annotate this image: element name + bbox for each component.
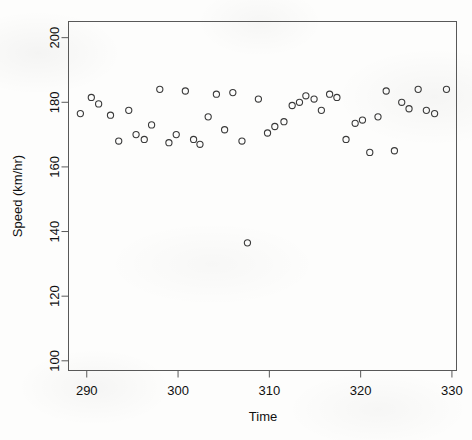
data-point <box>222 127 228 133</box>
data-point <box>311 96 317 102</box>
data-point <box>190 136 196 142</box>
data-point <box>133 132 139 138</box>
data-point-series <box>77 86 449 246</box>
data-point <box>230 89 236 95</box>
data-point <box>197 141 203 147</box>
x-tick-label: 300 <box>167 383 189 398</box>
data-point <box>96 101 102 107</box>
data-point <box>157 86 163 92</box>
data-point <box>116 138 122 144</box>
data-point <box>239 138 245 144</box>
y-tick-label: 180 <box>47 91 62 113</box>
data-point <box>415 86 421 92</box>
data-point <box>399 99 405 105</box>
data-point <box>303 93 309 99</box>
data-point <box>423 107 429 113</box>
x-tick-label: 320 <box>350 383 372 398</box>
data-point <box>272 123 278 129</box>
data-point <box>359 117 365 123</box>
data-point <box>431 111 437 117</box>
chart-canvas: 100120140160180200 290300310320330 Time … <box>0 0 472 440</box>
data-point <box>141 136 147 142</box>
data-point <box>264 130 270 136</box>
y-tick-label: 140 <box>47 221 62 243</box>
data-point <box>289 102 295 108</box>
x-tick-label: 330 <box>441 383 463 398</box>
data-point <box>244 240 250 246</box>
data-point <box>318 107 324 113</box>
data-point <box>443 86 449 92</box>
data-point <box>182 88 188 94</box>
data-point <box>406 106 412 112</box>
y-tick-label: 120 <box>47 285 62 307</box>
data-point <box>148 122 154 128</box>
data-point <box>213 91 219 97</box>
data-point <box>281 119 287 125</box>
data-point <box>126 107 132 113</box>
data-point <box>107 112 113 118</box>
data-point <box>296 99 302 105</box>
data-point <box>343 136 349 142</box>
data-point <box>334 94 340 100</box>
data-point <box>255 96 261 102</box>
data-point <box>205 114 211 120</box>
x-axis-title: Time <box>249 409 277 424</box>
x-tick-label: 290 <box>76 383 98 398</box>
x-tick-label: 310 <box>258 383 280 398</box>
data-point <box>166 140 172 146</box>
data-point <box>375 114 381 120</box>
data-point <box>88 94 94 100</box>
y-tick-label: 100 <box>47 350 62 372</box>
data-point <box>383 88 389 94</box>
data-point <box>352 120 358 126</box>
y-axis: 100120140160180200 <box>47 27 69 372</box>
data-point <box>391 148 397 154</box>
y-tick-label: 160 <box>47 156 62 178</box>
y-axis-title: Speed (km/hr) <box>10 155 25 237</box>
y-tick-label: 200 <box>47 27 62 49</box>
scatter-plot-figure: 100120140160180200 290300310320330 Time … <box>0 0 472 440</box>
x-axis: 290300310320330 <box>76 371 463 398</box>
data-point <box>77 111 83 117</box>
data-point <box>367 149 373 155</box>
data-point <box>173 132 179 138</box>
data-point <box>327 91 333 97</box>
plot-frame <box>69 22 457 371</box>
